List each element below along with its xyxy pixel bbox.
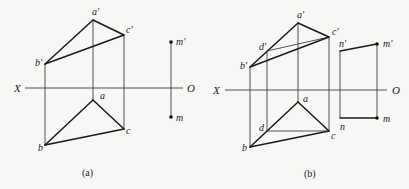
- panel-a: XOa'b'c'abcm'm(a): [13, 6, 195, 179]
- point-label-m-prime: m': [383, 38, 393, 49]
- point-label-a: a: [100, 90, 105, 101]
- edge-a-c: [93, 100, 124, 129]
- point-label-b: b: [242, 142, 247, 153]
- axis-label-x: X: [13, 82, 22, 94]
- axis-label-o: O: [187, 82, 195, 94]
- edge-b-prime-c-prime: [45, 35, 124, 64]
- point-label-d: d: [259, 122, 265, 133]
- edge-a-prime-b-prime: [250, 23, 298, 67]
- point-m-prime-dot: [375, 42, 379, 46]
- axis-label-o: O: [392, 84, 400, 96]
- point-label-a-prime: a': [92, 6, 100, 17]
- edge-a-prime-b-prime: [45, 20, 93, 64]
- point-label-c: c: [331, 130, 336, 141]
- point-m-prime-dot: [169, 40, 173, 44]
- axis-label-x: X: [212, 84, 221, 96]
- point-label-d-prime: d': [259, 41, 267, 52]
- edge-a-b: [45, 100, 93, 145]
- point-label-b-prime: b': [240, 60, 248, 71]
- point-label-m: m: [383, 113, 390, 124]
- point-m-dot: [169, 115, 173, 119]
- panel-b: XOa'b'c'd'abcdn'm'nm(b): [212, 9, 400, 180]
- point-label-b-prime: b': [35, 57, 43, 68]
- panel-caption-b: (b): [304, 168, 316, 180]
- point-label-n: n: [340, 121, 345, 132]
- point-label-n-prime: n': [339, 38, 347, 49]
- edge-b-c: [250, 131, 329, 147]
- edge-a-c: [298, 102, 329, 131]
- point-label-m-prime: m': [176, 36, 186, 47]
- point-label-a: a: [303, 93, 308, 104]
- edge-b-c: [45, 129, 124, 145]
- edge-a-prime-c-prime: [298, 23, 329, 37]
- projection-diagram: XOa'b'c'abcm'm(a) XOa'b'c'd'abcdn'm'nm(b…: [0, 0, 409, 189]
- point-label-c: c: [126, 125, 131, 136]
- point-m-dot: [375, 116, 379, 120]
- point-label-a-prime: a': [297, 9, 305, 20]
- point-label-m: m: [176, 112, 183, 123]
- edge-a-prime-c-prime: [93, 20, 124, 35]
- point-label-c-prime: c': [332, 26, 339, 37]
- edge-a-b: [250, 102, 298, 147]
- point-label-c-prime: c': [126, 24, 133, 35]
- panel-caption-a: (a): [82, 167, 93, 179]
- point-label-b: b: [38, 142, 43, 153]
